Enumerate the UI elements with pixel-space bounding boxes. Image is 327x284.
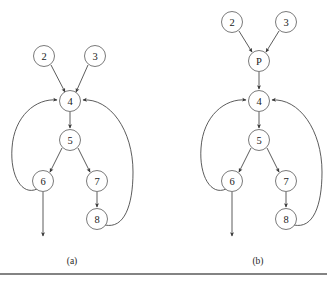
node-3[interactable]: 3 [276,12,297,33]
figure-graph-pair: 2 3 4 5 6 7 8 [0,0,327,284]
node-2-label: 2 [41,51,46,62]
figure-background [0,0,327,284]
node-3[interactable]: 3 [85,46,106,67]
node-4[interactable]: 4 [249,91,270,112]
node-6[interactable]: 6 [222,171,243,192]
node-2-label: 2 [229,17,234,28]
node-7[interactable]: 7 [87,171,108,192]
node-6[interactable]: 6 [33,171,54,192]
node-3-label: 3 [92,51,97,62]
caption-b: (b) [252,256,263,267]
node-p-label: P [256,56,262,67]
node-8-label: 8 [94,214,99,225]
node-2[interactable]: 2 [34,46,55,67]
node-7[interactable]: 7 [276,171,297,192]
node-p[interactable]: P [249,51,270,72]
node-8[interactable]: 8 [276,209,297,230]
node-6-label: 6 [40,176,45,187]
node-5-label: 5 [256,135,261,146]
node-5[interactable]: 5 [249,130,270,151]
node-7-label: 7 [283,176,288,187]
node-8[interactable]: 8 [87,209,108,230]
node-6-label: 6 [229,176,234,187]
node-5-label: 5 [67,135,72,146]
node-4-label: 4 [256,96,262,107]
node-4[interactable]: 4 [60,91,81,112]
node-5[interactable]: 5 [60,130,81,151]
node-4-label: 4 [67,96,73,107]
caption-a: (a) [67,256,78,267]
node-2[interactable]: 2 [222,12,243,33]
node-7-label: 7 [94,176,99,187]
node-3-label: 3 [283,17,288,28]
node-8-label: 8 [283,214,288,225]
